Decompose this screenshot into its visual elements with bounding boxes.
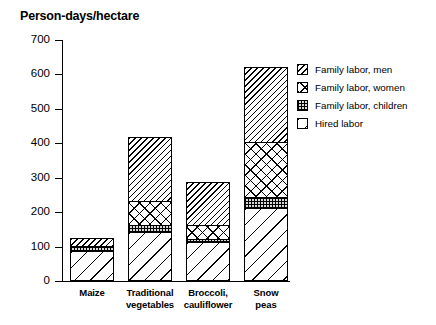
bar-segment-hired-labor (244, 208, 288, 281)
chart-legend: Family labor, menFamily labor, womenFami… (297, 60, 436, 132)
bar-segment-family-labor-children (244, 197, 288, 208)
y-axis-tick-label-200: 200 (16, 206, 50, 218)
y-axis-tick-label-600: 600 (16, 68, 50, 80)
bar-maize (70, 239, 114, 281)
legend-swatch-icon (297, 100, 308, 111)
x-axis-label-snow-peas: Snowpeas (223, 287, 309, 310)
bar-segment-family-labor-men (186, 182, 230, 226)
bar-segment-family-labor-women (186, 225, 230, 240)
bar-segment-hired-labor (70, 251, 114, 281)
x-axis-line (62, 281, 290, 282)
legend-item: Family labor, women (297, 78, 436, 96)
y-axis-tick-label-400: 400 (16, 137, 50, 149)
y-axis-tick-label-0: 0 (16, 275, 50, 287)
bar-segment-family-labor-men (70, 238, 114, 247)
legend-item: Family labor, men (297, 60, 436, 78)
bar-traditional-vegetables (128, 138, 172, 281)
legend-item-label: Family labor, children (315, 100, 408, 111)
legend-swatch-icon (297, 64, 308, 75)
bar-segment-hired-labor (186, 242, 230, 281)
y-axis-tick-label-300: 300 (16, 172, 50, 184)
bar-segment-hired-labor (128, 232, 172, 281)
legend-item-label: Hired labor (315, 118, 363, 129)
legend-item: Hired labor (297, 114, 436, 132)
legend-item-label: Family labor, men (315, 64, 392, 75)
x-axis-label-line: Snow (223, 287, 309, 299)
legend-swatch-icon (297, 82, 308, 93)
plot-area (62, 40, 289, 281)
x-axis-label-line: peas (223, 299, 309, 311)
legend-swatch-icon (297, 118, 308, 129)
bar-broccoli-cauliflower (186, 183, 230, 281)
chart-figure: Person-days/hectare 01002003004005006007… (0, 0, 436, 325)
y-axis-tick-label-100: 100 (16, 241, 50, 253)
legend-item: Family labor, children (297, 96, 436, 114)
y-axis-tick-label-500: 500 (16, 103, 50, 115)
y-axis-tick-labels: 0100200300400500600700 (12, 0, 50, 325)
legend-item-label: Family labor, women (315, 82, 405, 93)
bar-snow-peas (244, 68, 288, 281)
bar-segment-family-labor-children (128, 225, 172, 233)
bar-segment-family-labor-women (244, 142, 288, 198)
bar-segment-family-labor-women (128, 201, 172, 226)
bar-segment-family-labor-men (244, 67, 288, 144)
bar-segment-family-labor-men (128, 137, 172, 202)
y-axis-tick-label-700: 700 (16, 34, 50, 46)
